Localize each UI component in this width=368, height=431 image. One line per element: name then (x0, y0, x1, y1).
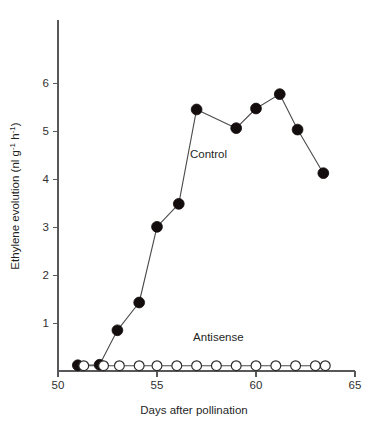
series-lines (78, 94, 325, 366)
line-chart: 123456 50556065 ControlAntisense Days af… (0, 0, 368, 431)
data-point-control (251, 103, 262, 114)
y-tick-label: 1 (43, 317, 49, 329)
data-point-control (152, 221, 163, 232)
data-point-control (292, 124, 303, 135)
data-point-antisense (311, 361, 321, 371)
series-markers (72, 89, 330, 371)
data-point-control (173, 198, 184, 209)
y-tick-label: 6 (43, 77, 49, 89)
y-tick-label: 3 (43, 221, 49, 233)
x-tick-label: 55 (151, 379, 164, 391)
data-point-antisense (99, 361, 109, 371)
series-label-antisense: Antisense (193, 331, 244, 343)
data-point-antisense (271, 361, 281, 371)
data-point-antisense (212, 361, 222, 371)
data-point-control (134, 297, 145, 308)
data-point-control (191, 104, 202, 115)
ethylene-evolution-figure: 123456 50556065 ControlAntisense Days af… (0, 0, 368, 431)
y-axis-ticks: 123456 (43, 77, 58, 329)
data-point-control (231, 123, 242, 134)
series-labels: ControlAntisense (190, 148, 244, 343)
data-point-antisense (192, 361, 202, 371)
data-point-antisense (79, 361, 89, 371)
y-tick-label: 4 (43, 173, 50, 185)
data-point-control (318, 168, 329, 179)
data-point-control (274, 89, 285, 100)
data-point-control (112, 325, 123, 336)
y-tick-label: 2 (43, 269, 49, 281)
y-tick-label: 5 (43, 125, 49, 137)
data-point-antisense (134, 361, 144, 371)
x-tick-label: 65 (349, 379, 362, 391)
series-line-control (78, 94, 324, 365)
data-point-antisense (251, 361, 261, 371)
data-point-antisense (172, 361, 182, 371)
x-axis-ticks: 50556065 (52, 371, 362, 391)
data-point-antisense (291, 361, 301, 371)
x-axis-title: Days after pollination (140, 404, 247, 416)
x-tick-label: 50 (52, 379, 65, 391)
y-axis-title: Ethylene evolution (nl g-1 h-1) (8, 122, 22, 269)
data-point-antisense (320, 361, 330, 371)
series-label-control: Control (190, 148, 227, 160)
x-tick-label: 60 (250, 379, 263, 391)
data-point-antisense (114, 361, 124, 371)
data-point-antisense (152, 361, 162, 371)
data-point-antisense (231, 361, 241, 371)
